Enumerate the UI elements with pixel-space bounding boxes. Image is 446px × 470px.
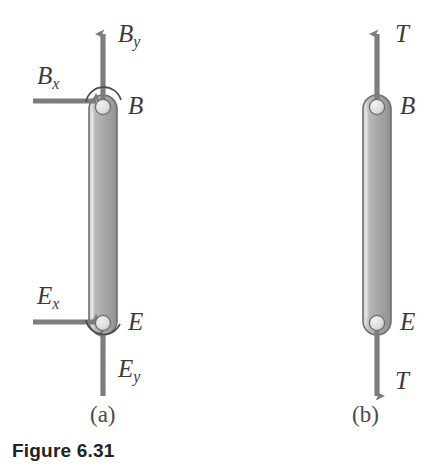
force-label-Ex: Ex: [37, 283, 59, 308]
link-member-be-b: [363, 95, 391, 335]
figure-caption: Figure 6.31: [12, 440, 115, 462]
link-member-be-a: [89, 95, 117, 335]
pin-joint-b-a: [95, 99, 110, 114]
panel-b-group: [363, 34, 391, 396]
force-label-By-sub: y: [133, 33, 140, 50]
force-label-Bx-base: B: [37, 62, 52, 89]
panel-sublabel-b: (b): [352, 403, 379, 426]
joint-label-e-b: E: [400, 309, 415, 334]
force-label-Ey-base: E: [118, 355, 133, 382]
force-label-By-base: B: [118, 20, 133, 47]
force-label-Ey: Ey: [118, 356, 140, 381]
force-label-T-top: T: [395, 21, 409, 46]
force-label-Bx-sub: x: [52, 75, 59, 92]
pin-joint-e-a: [95, 315, 110, 330]
joint-label-e-a: E: [128, 309, 143, 334]
force-label-T-bottom: T: [395, 368, 409, 393]
free-body-diagram-canvas: [0, 0, 446, 470]
pin-joint-e-b: [369, 315, 384, 330]
joint-label-b-b: B: [400, 93, 415, 118]
force-label-By: By: [118, 21, 140, 46]
force-label-Ex-sub: x: [52, 295, 59, 312]
pin-joint-b-b: [369, 99, 384, 114]
force-label-Bx: Bx: [37, 63, 59, 88]
joint-label-b-a: B: [128, 93, 143, 118]
figure-6-31: By Bx B Ex E Ey (a) T B E T (b) Figure 6…: [0, 0, 446, 470]
force-label-Ex-base: E: [37, 282, 52, 309]
force-label-Ey-sub: y: [133, 368, 140, 385]
panel-sublabel-a: (a): [90, 403, 116, 426]
